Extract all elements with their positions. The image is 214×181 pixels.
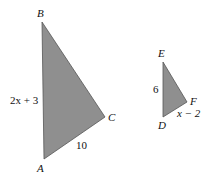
side-label-df: x − 2 <box>177 108 200 119</box>
side-label-de: 6 <box>153 84 159 95</box>
side-label-ac: 10 <box>76 140 87 151</box>
vertex-label-c: C <box>108 112 115 123</box>
triangles-canvas <box>0 0 214 181</box>
similar-triangles-diagram: B C A 2x + 3 10 E F D 6 x − 2 <box>0 0 214 181</box>
vertex-label-f: F <box>190 96 197 107</box>
vertex-label-e: E <box>158 48 165 59</box>
side-label-ab: 2x + 3 <box>10 95 38 106</box>
vertex-label-a: A <box>37 163 44 174</box>
vertex-label-b: B <box>37 8 44 19</box>
vertex-label-d: D <box>158 120 166 131</box>
triangle-abc <box>42 22 105 159</box>
